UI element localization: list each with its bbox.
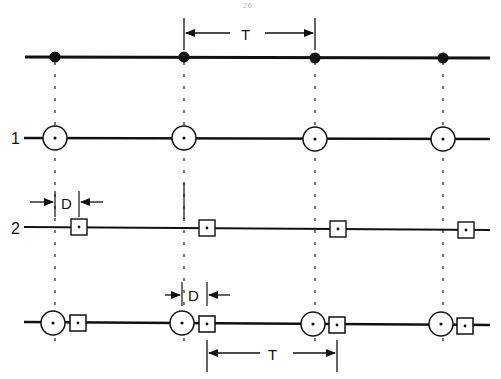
- pulse-dot: [310, 53, 321, 64]
- row-2-delay-annotation: D: [30, 183, 184, 219]
- timing-diagram: 26 T 1: [0, 0, 501, 379]
- top-row: [25, 52, 490, 64]
- row-2: 2: [11, 219, 490, 238]
- row-2-label: 2: [11, 220, 20, 237]
- row-3: [24, 311, 490, 336]
- row-3-delay-label: D: [188, 287, 199, 304]
- page-number: 26: [243, 1, 252, 10]
- pulse-dot: [179, 52, 190, 63]
- row-1: 1: [11, 126, 490, 151]
- pulse-dot: [438, 53, 449, 64]
- guide-lines: [55, 62, 443, 350]
- bottom-period-label: T: [268, 346, 277, 363]
- top-period-annotation: T: [184, 18, 315, 50]
- row-2-delay-label: D: [61, 195, 72, 212]
- row-3-delay-annotation: D: [165, 282, 230, 306]
- pulse-dot: [50, 52, 61, 63]
- row-1-label: 1: [11, 130, 20, 147]
- top-period-label: T: [241, 26, 250, 43]
- bottom-period-annotation: T: [207, 340, 337, 372]
